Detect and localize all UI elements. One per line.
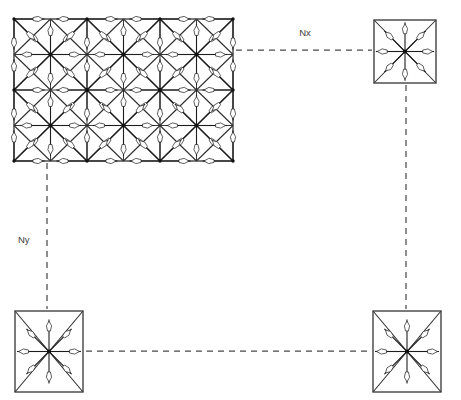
node-center-dot: [49, 124, 53, 128]
node-center-dot: [12, 88, 15, 91]
node-center-dot: [195, 124, 199, 128]
node-center-dot: [405, 350, 409, 354]
canvas-background: [0, 0, 461, 400]
mesh-node: [376, 22, 434, 80]
node-center-dot: [122, 124, 126, 128]
mesh-diagram-canvas: NxNy: [0, 0, 461, 400]
node-center-dot: [12, 17, 15, 20]
node-center-dot: [158, 159, 161, 162]
satellite-bottom-left: [15, 311, 83, 392]
diagram-root: NxNy: [0, 0, 461, 400]
node-center-dot: [231, 88, 234, 91]
satellite-top-right: [374, 20, 436, 83]
node-center-dot: [231, 17, 234, 20]
node-center-dot: [231, 159, 234, 162]
node-center-dot: [158, 17, 161, 20]
label-ny: Ny: [18, 234, 30, 245]
mesh-node: [375, 320, 439, 384]
node-center-dot: [403, 50, 407, 54]
node-center-dot: [12, 159, 15, 162]
node-center-dot: [158, 88, 162, 92]
node-center-dot: [85, 17, 88, 20]
mesh-node: [17, 320, 81, 384]
node-center-dot: [85, 88, 89, 92]
node-center-dot: [122, 53, 126, 57]
node-center-dot: [49, 53, 53, 57]
label-nx: Nx: [299, 27, 311, 38]
satellite-bottom-right: [373, 311, 441, 392]
node-center-dot: [85, 159, 88, 162]
node-center-dot: [195, 53, 199, 57]
node-center-dot: [47, 350, 51, 354]
